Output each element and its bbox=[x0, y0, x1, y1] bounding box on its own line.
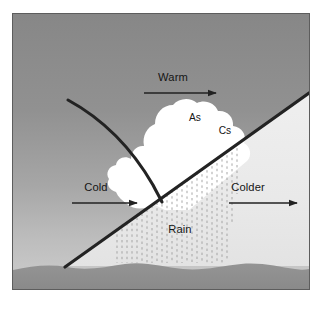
figure-root: Warm As Cs Cold Colder Rain bbox=[0, 0, 324, 310]
weather-front-diagram: Warm As Cs Cold Colder Rain bbox=[13, 14, 309, 289]
ground-terrain bbox=[13, 263, 309, 289]
label-colder: Colder bbox=[231, 181, 265, 193]
label-cs-cirrostratus: Cs bbox=[219, 125, 231, 136]
label-rain: Rain bbox=[168, 223, 191, 235]
diagram-frame: Warm As Cs Cold Colder Rain bbox=[12, 13, 310, 290]
label-warm: Warm bbox=[158, 71, 188, 83]
label-cold: Cold bbox=[84, 181, 107, 193]
label-as-altostratus: As bbox=[189, 112, 201, 123]
